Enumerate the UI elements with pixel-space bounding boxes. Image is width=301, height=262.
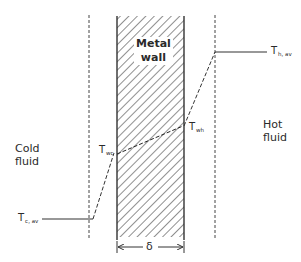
temp-cold-avg-label: Tc, av xyxy=(18,213,38,225)
temp-wall-cold-label: Twc xyxy=(99,145,114,157)
metal-wall-label-line2: wall xyxy=(136,51,171,65)
cold-fluid-line2: fluid xyxy=(15,155,39,168)
hot-fluid-line1: Hot xyxy=(263,118,287,131)
hot-fluid-label: Hot fluid xyxy=(263,118,287,144)
metal-wall-label: Metal wall xyxy=(134,37,173,65)
cold-fluid-label: Cold fluid xyxy=(15,142,39,168)
temp-hot-avg-label: Th, av xyxy=(271,46,292,58)
temp-wall-hot-label: Twh xyxy=(189,122,204,134)
wall-thickness-symbol: δ xyxy=(144,241,155,252)
metal-wall-label-line1: Metal xyxy=(136,37,171,51)
cold-fluid-line1: Cold xyxy=(15,142,39,155)
hot-fluid-line2: fluid xyxy=(263,131,287,144)
